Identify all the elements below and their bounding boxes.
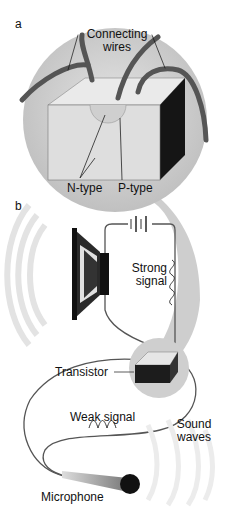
transistor-label: Transistor (55, 366, 108, 379)
p-type-label: P-type (118, 182, 153, 195)
strong-signal-wave-icon (170, 260, 175, 305)
microphone-label: Microphone (41, 491, 104, 504)
diagram-canvas (0, 0, 226, 525)
n-type-label: N-type (67, 182, 102, 195)
sound-waves-line2: waves (174, 431, 214, 444)
connecting-wires-line2: wires (82, 41, 152, 54)
strong-signal-line2: signal (125, 275, 167, 288)
connecting-wires-label: Connecting wires (82, 28, 152, 54)
panel-a-label: a (15, 18, 22, 31)
sound-waves-label: Sound waves (174, 418, 214, 444)
speaker-sound-waves (7, 205, 45, 345)
strong-signal-label: Strong signal (125, 262, 167, 288)
panel-b-label: b (15, 200, 22, 213)
speaker-icon (72, 228, 109, 320)
weak-signal-label: Weak signal (70, 411, 135, 424)
semiconductor-block (48, 78, 185, 180)
battery-icon (131, 216, 146, 232)
